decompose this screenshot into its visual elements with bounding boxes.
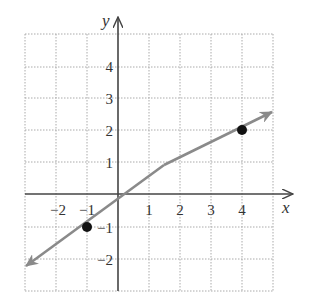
x-tick-label: 4 [238, 202, 246, 218]
y-axis-label: y [100, 11, 110, 30]
grid [25, 34, 273, 291]
x-tick-label: −2 [50, 202, 66, 218]
y-tick-label: −2 [97, 252, 113, 268]
x-axis-label: x [281, 198, 290, 217]
point-neg1-neg1 [82, 222, 92, 232]
y-tick-labels: 4 3 2 1 −1 −2 [97, 59, 113, 268]
y-tick-label: 2 [106, 123, 114, 139]
x-tick-label: −1 [79, 202, 95, 218]
coordinate-plane: x y −2 −1 1 2 3 4 4 3 2 1 −1 −2 [0, 0, 310, 303]
y-tick-label: 3 [106, 91, 114, 107]
y-tick-label: −1 [97, 220, 113, 236]
y-tick-label: 1 [106, 155, 114, 171]
y-tick-label: 4 [106, 59, 114, 75]
point-4-2 [237, 125, 247, 135]
plotted-line [26, 165, 164, 266]
x-tick-label: 2 [176, 202, 184, 218]
plotted-line [164, 112, 272, 165]
x-tick-labels: −2 −1 1 2 3 4 [50, 202, 246, 218]
x-tick-label: 3 [207, 202, 215, 218]
x-tick-label: 1 [145, 202, 153, 218]
